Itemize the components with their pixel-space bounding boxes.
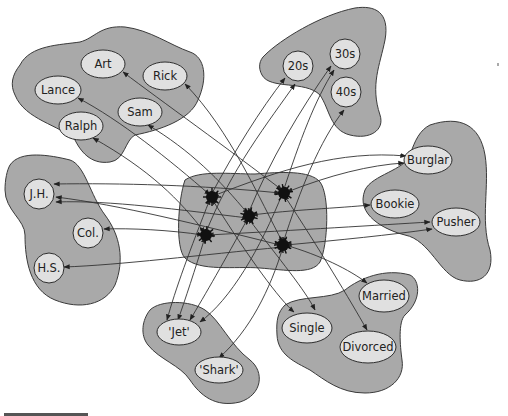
unit-label: Married (362, 289, 406, 303)
unit-label: Burglar (407, 153, 449, 167)
unit-single[interactable]: Single (282, 313, 332, 343)
unit-label: 30s (335, 47, 356, 61)
hub-node (278, 187, 290, 199)
unit-label: 'Jet' (168, 325, 189, 339)
unit-label: 'Shark' (199, 363, 238, 377)
pool-gang (143, 303, 259, 404)
unit-jet[interactable]: 'Jet' (157, 319, 201, 345)
unit-lance[interactable]: Lance (35, 76, 81, 104)
unit-bookie[interactable]: Bookie (371, 190, 419, 218)
unit-art[interactable]: Art (81, 50, 125, 78)
unit-pusher[interactable]: Pusher (432, 208, 480, 236)
unit-sam[interactable]: Sam (118, 98, 162, 126)
unit-col[interactable]: Col. (73, 218, 103, 248)
unit-label: J.H. (28, 187, 48, 201)
unit-30s[interactable]: 30s (330, 39, 360, 69)
unit-label: Sam (127, 105, 153, 119)
unit-rick[interactable]: Rick (143, 62, 187, 90)
hub-node (243, 210, 255, 222)
network-diagram: Art Rick Lance Sam Ralph 20s 30s 40s Bur… (0, 0, 508, 416)
unit-shark[interactable]: 'Shark' (195, 357, 243, 383)
unit-40s[interactable]: 40s (331, 77, 361, 107)
unit-ralph[interactable]: Ralph (59, 112, 103, 140)
unit-divorced[interactable]: Divorced (340, 331, 396, 363)
unit-jh[interactable]: J.H. (24, 179, 54, 209)
unit-label: Lance (41, 83, 75, 97)
unit-label: Col. (77, 226, 99, 240)
unit-label: Art (94, 57, 112, 71)
hub-node (277, 239, 289, 251)
unit-20s[interactable]: 20s (283, 51, 313, 81)
unit-hs[interactable]: H.S. (34, 253, 64, 283)
hub-node (200, 229, 212, 241)
unit-label: Single (289, 321, 324, 335)
unit-label: 20s (288, 59, 309, 73)
unit-label: Pusher (436, 215, 475, 229)
unit-label: Bookie (376, 197, 415, 211)
hub-node (206, 191, 218, 203)
instance-hub[interactable] (203, 188, 221, 206)
unit-label: Divorced (342, 340, 393, 354)
speck (497, 63, 499, 66)
unit-burglar[interactable]: Burglar (404, 146, 452, 174)
unit-label: Rick (153, 69, 178, 83)
unit-label: 40s (336, 85, 357, 99)
unit-married[interactable]: Married (359, 280, 409, 312)
unit-label: H.S. (37, 261, 60, 275)
unit-label: Ralph (65, 119, 98, 133)
pool-age (260, 7, 386, 136)
